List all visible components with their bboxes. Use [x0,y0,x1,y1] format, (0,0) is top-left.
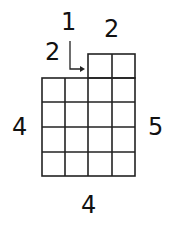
label-right: 5 [148,115,163,139]
arrow-icon [70,41,80,69]
label-top-right: 2 [104,17,119,41]
label-left: 4 [12,115,27,139]
label-top-arrow: 1 [61,10,76,34]
label-bottom: 4 [81,193,96,217]
label-top-left: 2 [45,40,60,64]
